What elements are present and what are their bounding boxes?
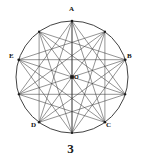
vertex-dot-v3 [124, 93, 126, 95]
vertex-dot-d [38, 121, 41, 124]
vertex-dot-e [17, 58, 20, 61]
chord-line [19, 21, 72, 94]
center-label-o: O [74, 74, 79, 80]
chord-line [19, 94, 105, 122]
vertex-label-a: A [69, 6, 74, 13]
vertex-dot-v7 [18, 93, 20, 95]
chord-line [19, 32, 105, 60]
chord-line [19, 60, 72, 133]
vertex-dot-v9 [38, 31, 40, 33]
geometry-diagram [0, 0, 141, 163]
vertex-label-b: B [127, 53, 132, 60]
figure-caption: 3 [0, 142, 141, 156]
chord-line [72, 21, 125, 94]
vertex-dot-v5 [71, 132, 73, 134]
vertex-dot-v1 [104, 31, 106, 33]
vertex-label-d: D [31, 122, 36, 129]
chord-line [72, 60, 125, 133]
figure-container: A B C D E O 3 [0, 0, 141, 163]
vertex-dot-a [71, 20, 74, 23]
vertex-label-c: C [106, 122, 111, 129]
vertex-label-e: E [9, 53, 14, 60]
chord-line [39, 32, 125, 60]
chord-line [39, 94, 125, 122]
